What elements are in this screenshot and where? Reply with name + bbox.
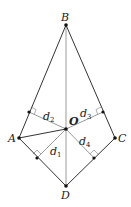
- point-A: [17, 136, 21, 140]
- label-d4: d4: [79, 135, 91, 149]
- foot-AD: [35, 156, 38, 159]
- foot-BC: [101, 110, 104, 113]
- right-angle-marker-CD: [90, 150, 98, 154]
- label-A: A: [7, 132, 16, 145]
- point-O: [64, 127, 68, 131]
- foot-CD: [92, 156, 95, 159]
- label-O: O: [69, 115, 79, 128]
- point-D: [64, 184, 68, 188]
- diagram-canvas: A B C D O d1 d2 d3 d4: [0, 0, 131, 207]
- label-d3: d3: [80, 107, 92, 121]
- label-D: D: [60, 189, 70, 202]
- foot-AB: [27, 110, 30, 113]
- label-d2: d2: [43, 110, 55, 124]
- label-d1: d1: [50, 145, 62, 159]
- point-C: [113, 136, 117, 140]
- label-B: B: [60, 11, 69, 24]
- label-C: C: [118, 132, 127, 145]
- edge-DA: [19, 138, 66, 186]
